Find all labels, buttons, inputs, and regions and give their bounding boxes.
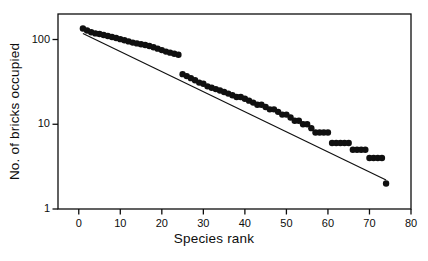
x-tick-label: 80 (391, 217, 428, 229)
data-point (379, 155, 385, 161)
x-tick-label: 40 (225, 217, 265, 229)
data-point (346, 140, 352, 146)
data-point (175, 52, 181, 58)
data-point (362, 147, 368, 153)
data-point (383, 180, 389, 186)
axes-frame (58, 14, 411, 209)
x-tick-label: 70 (349, 217, 389, 229)
x-tick-label: 10 (100, 217, 140, 229)
x-tick-label: 0 (59, 217, 99, 229)
y-tick-label: 100 (6, 33, 50, 45)
y-tick-label: 1 (6, 202, 50, 214)
data-point (325, 129, 331, 135)
regression-line (83, 33, 386, 180)
x-tick-label: 30 (183, 217, 223, 229)
x-tick-label: 50 (266, 217, 306, 229)
y-tick-label: 10 (6, 117, 50, 129)
x-axis-ticks (79, 209, 411, 215)
x-tick-label: 60 (308, 217, 348, 229)
y-axis-ticks (53, 40, 59, 209)
x-axis-title: Species rank (0, 231, 428, 246)
x-tick-label: 20 (142, 217, 182, 229)
data-points (80, 25, 390, 186)
fit-line (83, 33, 386, 180)
rank-abundance-chart: Species rank No. of bricks occupied 0102… (0, 0, 428, 261)
